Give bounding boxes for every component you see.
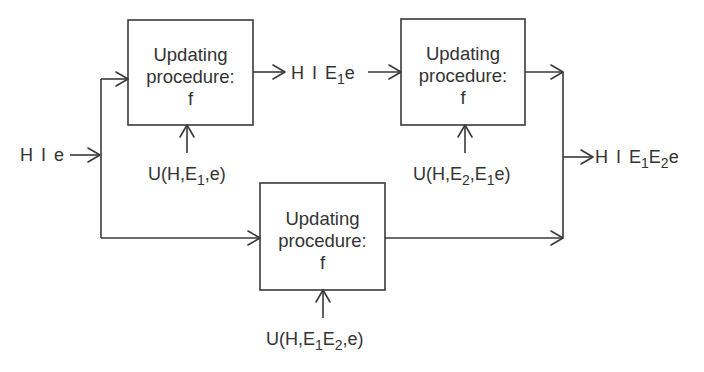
utility3-pre: U(H,E <box>266 329 315 349</box>
box1-line2: procedure: <box>128 66 253 88</box>
intermediate-tail: e <box>345 63 355 83</box>
intermediate-base: H I E <box>291 63 337 83</box>
utility3-post: ,e) <box>343 329 364 349</box>
utility1-sub: 1 <box>197 172 205 188</box>
box2-label: Updating procedure: f <box>401 43 525 109</box>
box1-line1: Updating <box>128 44 253 66</box>
output-sub2: 2 <box>661 155 669 171</box>
box1-line3: f <box>128 88 253 110</box>
box3-line2: procedure: <box>260 230 385 252</box>
input-label: H I e <box>20 146 64 164</box>
output-label: H I E1E2e <box>595 148 679 166</box>
box1-label: Updating procedure: f <box>128 44 253 110</box>
utility1-pre: U(H,E <box>148 164 197 184</box>
intermediate-sub: 1 <box>337 71 345 87</box>
intermediate-label: H I E1e <box>291 64 355 82</box>
output-tail: e <box>669 147 679 167</box>
utility1-label: U(H,E1,e) <box>148 165 226 183</box>
utility1-post: ,e) <box>205 164 226 184</box>
utility3-mid: E <box>323 329 335 349</box>
utility2-label: U(H,E2,E1e) <box>413 165 511 183</box>
utility2-mid: ,E <box>470 164 487 184</box>
box2-line2: procedure: <box>401 65 525 87</box>
box3-line1: Updating <box>260 208 385 230</box>
input-label-text: H I e <box>20 145 64 165</box>
utility2-sub1: 2 <box>462 172 470 188</box>
utility3-sub1: 1 <box>315 337 323 353</box>
utility2-pre: U(H,E <box>413 164 462 184</box>
utility3-sub2: 2 <box>335 337 343 353</box>
output-base: H I E <box>595 147 641 167</box>
utility2-post: e) <box>495 164 511 184</box>
output-sub1: 1 <box>641 155 649 171</box>
output-mid: E <box>649 147 661 167</box>
box3-line3: f <box>260 252 385 274</box>
utility2-sub2: 1 <box>487 172 495 188</box>
diagram-canvas <box>0 0 704 372</box>
utility3-label: U(H,E1E2,e) <box>266 330 364 348</box>
box2-line3: f <box>401 87 525 109</box>
box2-line1: Updating <box>401 43 525 65</box>
box3-label: Updating procedure: f <box>260 208 385 274</box>
